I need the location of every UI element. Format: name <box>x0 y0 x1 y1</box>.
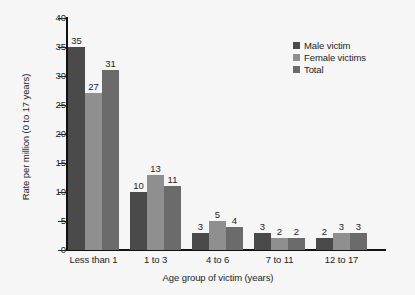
legend-label: Male victim <box>304 40 350 51</box>
bar <box>164 186 181 250</box>
legend-item: Male victim <box>293 40 366 51</box>
bar-group: 352731 <box>68 18 119 250</box>
bar <box>102 70 119 250</box>
bar <box>85 93 102 250</box>
legend-swatch-icon <box>293 42 300 49</box>
bar-value-label: 2 <box>285 227 309 237</box>
bar <box>350 233 367 250</box>
y-tick-mark <box>58 47 66 48</box>
y-tick-mark <box>58 192 66 193</box>
bar-chart: Rate per million (0 to 17 years) 0510152… <box>0 0 415 295</box>
bar <box>288 238 305 250</box>
y-tick-mark <box>58 18 66 19</box>
bar <box>333 233 350 250</box>
legend-item: Female victims <box>293 52 366 63</box>
legend-swatch-icon <box>293 54 300 61</box>
bar <box>68 47 85 250</box>
bar-value-label: 31 <box>99 59 123 69</box>
bar <box>147 175 164 250</box>
bar <box>192 233 209 250</box>
bar <box>130 192 147 250</box>
bar <box>316 238 333 250</box>
y-tick-mark <box>58 163 66 164</box>
y-tick-mark <box>58 134 66 135</box>
y-tick-mark <box>58 76 66 77</box>
bar-group: 101311 <box>130 18 181 250</box>
y-tick-mark <box>58 221 66 222</box>
legend-label: Female victims <box>304 52 366 63</box>
bar <box>271 238 288 250</box>
bar-value-label: 35 <box>65 36 89 46</box>
legend-item: Total <box>293 64 366 75</box>
x-axis-title: Age group of victim (years) <box>48 272 388 283</box>
chart-legend: Male victimFemale victimsTotal <box>293 40 366 76</box>
bar-value-label: 3 <box>347 222 371 232</box>
legend-label: Total <box>304 64 324 75</box>
legend-swatch-icon <box>293 66 300 73</box>
bar-group: 354 <box>192 18 243 250</box>
bar-value-label: 11 <box>161 175 185 185</box>
y-tick-mark <box>58 250 66 251</box>
x-tick-label: 12 to 17 <box>297 254 387 265</box>
y-tick-mark <box>58 105 66 106</box>
bar <box>226 227 243 250</box>
bar-value-label: 13 <box>144 164 168 174</box>
bar-value-label: 4 <box>223 216 247 226</box>
